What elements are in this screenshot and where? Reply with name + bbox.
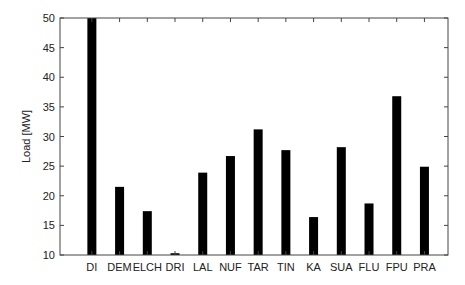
x-tick-label: KA [306, 261, 321, 273]
bar-tar [254, 129, 263, 255]
x-tick-label: FLU [359, 261, 380, 273]
x-tick-label: LAL [193, 261, 213, 273]
y-axis-label: Load [MW] [20, 110, 32, 163]
y-tick-label: 10 [43, 249, 55, 261]
y-tick-label: 15 [43, 219, 55, 231]
bar-flu [365, 203, 374, 255]
x-tick-label: DRI [166, 261, 185, 273]
x-tick-label: DEM [107, 261, 131, 273]
bar-di [87, 18, 96, 255]
x-tick-label: TAR [248, 261, 269, 273]
x-tick-label: ELCH [133, 261, 162, 273]
x-tick-label: PRA [413, 261, 436, 273]
bar-pra [420, 167, 429, 255]
bar-ka [309, 217, 318, 255]
y-tick-label: 45 [43, 42, 55, 54]
y-tick-label: 35 [43, 101, 55, 113]
bar-tin [281, 150, 290, 255]
bar-elch [143, 211, 152, 255]
y-tick-label: 50 [43, 12, 55, 24]
x-tick-label: DI [86, 261, 97, 273]
y-tick-label: 40 [43, 71, 55, 83]
y-tick-label: 30 [43, 131, 55, 143]
x-tick-label: SUA [330, 261, 353, 273]
x-tick-label: TIN [277, 261, 295, 273]
x-tick-label: NUF [219, 261, 242, 273]
x-tick-label: FPU [386, 261, 408, 273]
bar-fpu [392, 96, 401, 255]
y-tick-label: 20 [43, 190, 55, 202]
bar-nuf [226, 156, 235, 255]
plot-area: 101520253035404550DIDEMELCHDRILALNUFTART… [43, 12, 448, 273]
bar-chart: 101520253035404550DIDEMELCHDRILALNUFTART… [0, 0, 465, 285]
bar-lal [198, 173, 207, 255]
y-tick-label: 25 [43, 160, 55, 172]
bar-dem [115, 187, 124, 255]
bar-sua [337, 147, 346, 255]
